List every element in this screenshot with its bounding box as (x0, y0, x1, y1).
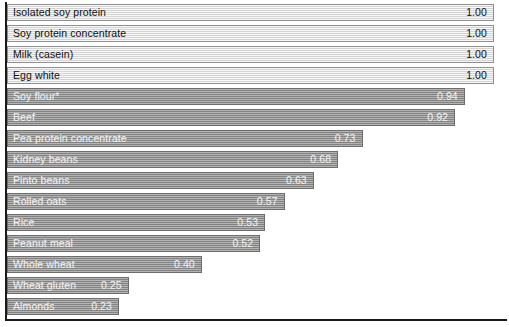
bar-category-label: Whole wheat (8, 257, 75, 272)
bar-value-label: 1.00 (466, 26, 493, 41)
bar-category-label: Milk (casein) (8, 47, 73, 62)
bar-row: Kidney beans0.68 (7, 151, 501, 168)
bar: Pea protein concentrate0.73 (7, 130, 363, 147)
bar: Pinto beans0.63 (7, 172, 314, 189)
bar: Isolated soy protein1.00 (7, 4, 494, 21)
bar-row: Whole wheat0.40 (7, 256, 501, 273)
bar-row: Pea protein concentrate0.73 (7, 130, 501, 147)
bar: Wheat gluten0.25 (7, 277, 129, 294)
bar-category-label: Kidney beans (8, 152, 78, 167)
bar-category-label: Egg white (8, 68, 60, 83)
bar: Beef0.92 (7, 109, 455, 126)
bar-row: Soy protein concentrate1.00 (7, 25, 501, 42)
bar-category-label: Isolated soy protein (8, 5, 106, 20)
bar-value-label: 0.63 (286, 173, 313, 188)
bar-value-label: 0.92 (427, 110, 454, 125)
bar-row: Isolated soy protein1.00 (7, 4, 501, 21)
bar: Whole wheat0.40 (7, 256, 202, 273)
bar-category-label: Rolled oats (8, 194, 67, 209)
bar-category-label: Soy protein concentrate (8, 26, 126, 41)
bar-category-label: Wheat gluten (8, 278, 76, 293)
bar-value-label: 0.94 (437, 89, 464, 104)
bar-row: Beef0.92 (7, 109, 501, 126)
bar-category-label: Rice (8, 215, 34, 230)
bar-category-label: Pinto beans (8, 173, 70, 188)
bar: Rolled oats0.57 (7, 193, 285, 210)
bar: Soy protein concentrate1.00 (7, 25, 494, 42)
bar-row: Peanut meal0.52 (7, 235, 501, 252)
bar-value-label: 0.53 (237, 215, 264, 230)
bar-row: Rice0.53 (7, 214, 501, 231)
bar: Rice0.53 (7, 214, 265, 231)
bar-category-label: Pea protein concentrate (8, 131, 127, 146)
bar-value-label: 0.25 (101, 278, 128, 293)
bar-value-label: 0.40 (174, 257, 201, 272)
bar-category-label: Beef (8, 110, 35, 125)
bar-category-label: Soy flour* (8, 89, 60, 104)
bar-row: Egg white1.00 (7, 67, 501, 84)
bar: Almonds0.23 (7, 298, 119, 315)
bar-category-label: Almonds (8, 299, 55, 314)
bar: Milk (casein)1.00 (7, 46, 494, 63)
bar-value-label: 0.23 (91, 299, 118, 314)
bar: Kidney beans0.68 (7, 151, 338, 168)
bar: Peanut meal0.52 (7, 235, 260, 252)
bar-value-label: 1.00 (466, 68, 493, 83)
bar-value-label: 0.57 (257, 194, 284, 209)
bar-row: Pinto beans0.63 (7, 172, 501, 189)
bar-category-label: Peanut meal (8, 236, 73, 251)
horizontal-bar-chart: Isolated soy protein1.00Soy protein conc… (0, 0, 509, 327)
bar-value-label: 0.73 (335, 131, 362, 146)
bar-row: Almonds0.23 (7, 298, 501, 315)
bar-value-label: 1.00 (466, 5, 493, 20)
bar-row: Milk (casein)1.00 (7, 46, 501, 63)
bar-row: Wheat gluten0.25 (7, 277, 501, 294)
plot-area: Isolated soy protein1.00Soy protein conc… (7, 4, 501, 318)
bar: Egg white1.00 (7, 67, 494, 84)
bar-value-label: 0.52 (232, 236, 259, 251)
bar-value-label: 0.68 (310, 152, 337, 167)
value-axis-baseline (5, 319, 507, 321)
bar-value-label: 1.00 (466, 47, 493, 62)
bar: Soy flour*0.94 (7, 88, 465, 105)
bar-row: Rolled oats0.57 (7, 193, 501, 210)
bar-row: Soy flour*0.94 (7, 88, 501, 105)
